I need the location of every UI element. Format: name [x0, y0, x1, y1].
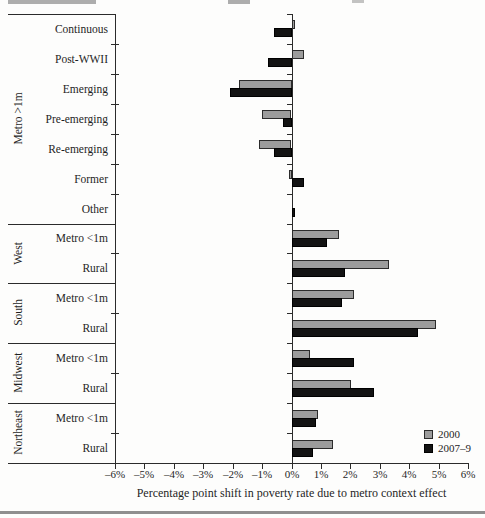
category-axis-tick	[111, 194, 119, 195]
category-axis-tick	[111, 134, 119, 135]
row-label: Re-emerging	[26, 134, 108, 164]
bar-2007–9	[292, 238, 327, 247]
row-label: Former	[26, 164, 108, 194]
bar-2007–9	[268, 58, 292, 67]
zero-axis-tick	[287, 224, 292, 225]
legend-label-2007-9: 2007–9	[438, 442, 471, 454]
x-tick-label: 6%	[450, 468, 485, 480]
row-label: Metro <1m	[26, 343, 108, 373]
group-label: Metro >1m	[8, 14, 28, 224]
x-axis-line	[8, 463, 468, 464]
zero-axis-tick	[287, 104, 292, 105]
zero-axis-tick	[287, 134, 292, 135]
legend-swatch-2000	[424, 430, 433, 439]
legend-item-2000: 2000	[424, 427, 471, 441]
page-divider-rule	[0, 511, 485, 514]
row-label: Rural	[26, 373, 108, 403]
legend-swatch-2007-9	[424, 444, 433, 453]
zero-axis-tick	[287, 14, 292, 15]
zero-axis-tick	[287, 343, 292, 344]
row-label: Metro <1m	[26, 403, 108, 433]
zero-axis-tick	[287, 44, 292, 45]
group-label: South	[8, 283, 28, 343]
bar-2007–9	[274, 148, 292, 157]
bar-2007–9	[292, 268, 345, 277]
poverty-shift-bar-chart: Metro >1mContinuousPost-WWIIEmergingPre-…	[0, 0, 485, 518]
category-axis-tick	[111, 253, 119, 254]
category-axis-tick	[111, 313, 119, 314]
row-label: Metro <1m	[26, 224, 108, 254]
legend-item-2007-9: 2007–9	[424, 441, 471, 455]
bar-2000	[292, 20, 295, 29]
zero-axis-tick	[287, 313, 292, 314]
bar-2007–9	[292, 358, 354, 367]
row-label: Post-WWII	[26, 44, 108, 74]
row-label: Rural	[26, 433, 108, 463]
zero-axis-tick	[287, 433, 292, 434]
zero-axis-tick	[287, 283, 292, 284]
group-label: Northeast	[8, 403, 28, 463]
bar-2007–9	[292, 178, 304, 187]
zero-axis-tick	[287, 194, 292, 195]
row-label: Emerging	[26, 74, 108, 104]
category-axis-tick	[111, 74, 119, 75]
zero-axis-tick	[287, 373, 292, 374]
group-label: Midwest	[8, 343, 28, 403]
row-label: Rural	[26, 253, 108, 283]
category-axis-tick	[111, 373, 119, 374]
plot-area: Metro >1mContinuousPost-WWIIEmergingPre-…	[0, 0, 485, 518]
bar-2007–9	[274, 28, 292, 37]
row-label: Rural	[26, 313, 108, 343]
category-axis-tick	[111, 44, 119, 45]
zero-axis-tick	[287, 253, 292, 254]
x-axis-title: Percentage point shift in poverty rate d…	[115, 486, 468, 501]
row-label: Pre-emerging	[26, 104, 108, 134]
legend: 2000 2007–9	[424, 427, 471, 455]
bar-2007–9	[292, 448, 313, 457]
legend-label-2000: 2000	[438, 428, 460, 440]
bar-2000	[292, 50, 304, 59]
zero-axis-tick	[287, 74, 292, 75]
bar-2007–9	[230, 88, 292, 97]
category-axis-tick	[111, 104, 119, 105]
zero-axis-tick	[287, 403, 292, 404]
bar-2007–9	[292, 298, 342, 307]
row-label: Metro <1m	[26, 283, 108, 313]
row-label: Other	[26, 194, 108, 224]
category-axis-tick	[111, 164, 119, 165]
bar-2007–9	[292, 208, 295, 217]
category-axis-line	[115, 14, 116, 463]
bar-2007–9	[292, 418, 316, 427]
category-axis-tick	[111, 433, 119, 434]
row-label: Continuous	[26, 14, 108, 44]
bar-2007–9	[292, 328, 418, 337]
group-label: West	[8, 224, 28, 284]
bar-2007–9	[283, 118, 292, 127]
zero-axis-tick	[287, 164, 292, 165]
bar-2007–9	[292, 388, 374, 397]
